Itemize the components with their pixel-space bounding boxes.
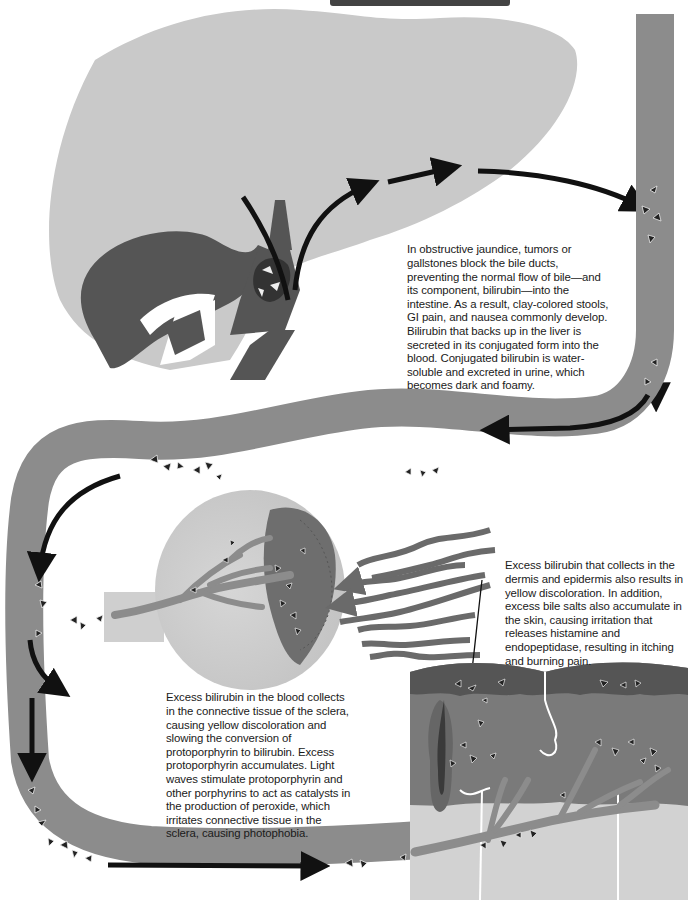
obstructive-jaundice-caption: In obstructive jaundice, tumors or galls… <box>407 243 612 393</box>
skin-caption: Excess bilirubin that collects in the de… <box>505 559 690 668</box>
sclera-caption: Excess bilirubin in the blood collects i… <box>166 691 356 841</box>
skin-cross-section <box>410 662 688 900</box>
eye-sclera <box>104 490 345 690</box>
light-waves <box>340 530 495 657</box>
